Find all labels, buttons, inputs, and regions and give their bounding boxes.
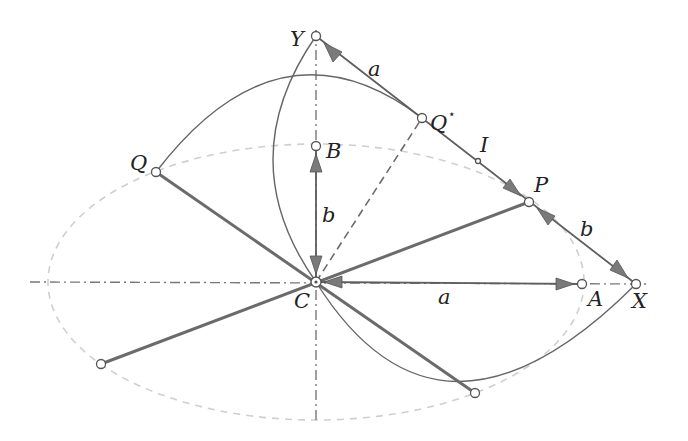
arrowhead-at-x	[610, 260, 628, 278]
ellipse-construction-diagram: Y B Q ⋆ I P X A Q C a b b a	[0, 0, 688, 441]
point-b	[312, 142, 321, 151]
point-qstar	[418, 114, 427, 123]
arrowhead-at-y	[324, 43, 342, 62]
label-segment-cb: b	[322, 203, 335, 227]
arrowhead-at-b	[310, 154, 322, 172]
diagram-canvas: Y B Q ⋆ I P X A Q C a b b a	[0, 0, 688, 441]
point-x	[632, 280, 641, 289]
label-segment-px: b	[580, 217, 593, 241]
label-x: X	[630, 289, 648, 313]
label-b: B	[325, 139, 341, 163]
label-c: C	[294, 289, 310, 313]
point-c-center-dot	[314, 280, 317, 283]
arrowhead-at-a	[556, 278, 574, 290]
point-p-opposite	[97, 360, 106, 369]
label-i: I	[479, 133, 489, 157]
point-i	[476, 159, 481, 164]
point-y	[312, 32, 321, 41]
point-q-opposite	[471, 389, 480, 398]
label-p: P	[533, 173, 549, 197]
arc-y-to-c	[273, 36, 316, 282]
point-a	[578, 280, 587, 289]
label-y: Y	[290, 27, 306, 51]
label-segment-ca: a	[438, 285, 451, 309]
arrowhead-into-p	[503, 179, 521, 196]
arrowhead-c-up	[310, 256, 322, 274]
point-q	[152, 168, 161, 177]
arc-q-to-qstar	[156, 75, 422, 172]
label-qstar: Q	[430, 111, 447, 135]
point-p	[525, 198, 534, 207]
label-segment-yq: a	[368, 57, 381, 81]
label-qstar-star: ⋆	[448, 107, 456, 121]
label-q: Q	[130, 151, 147, 175]
label-a: A	[586, 287, 603, 311]
